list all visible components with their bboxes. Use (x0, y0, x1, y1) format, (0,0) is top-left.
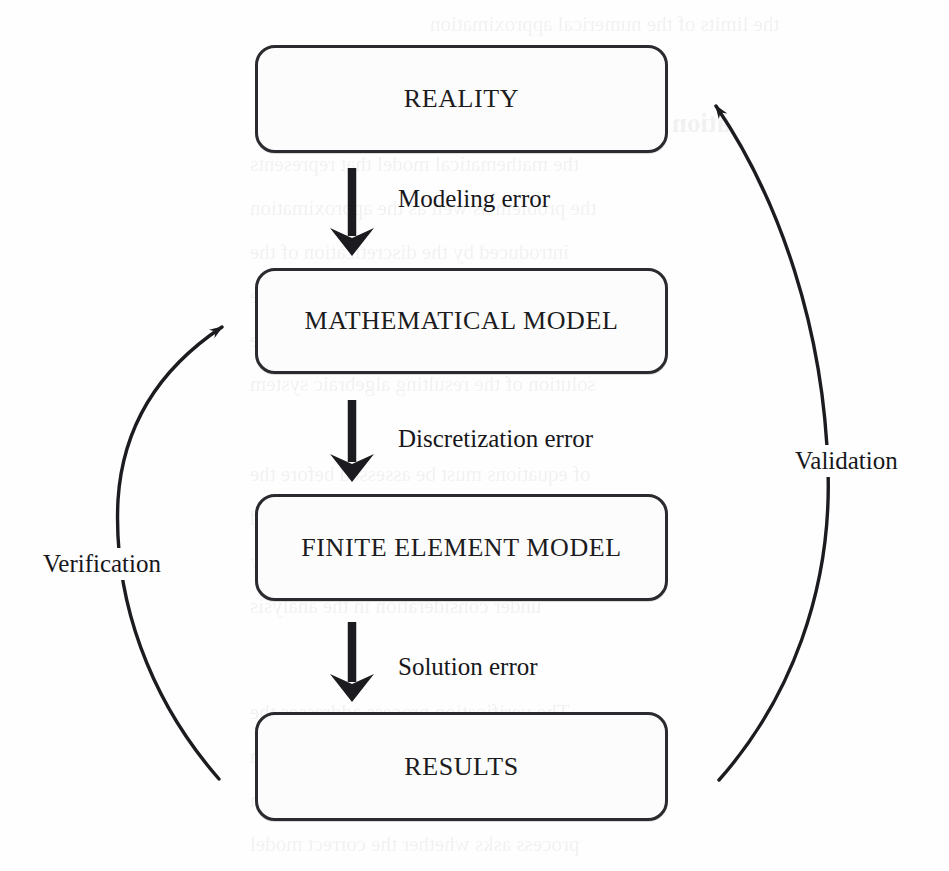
node-results[interactable]: RESULTS (255, 712, 668, 821)
arrow-modeling-error (330, 168, 374, 256)
edge-label-verification: Verification (38, 548, 166, 580)
edge-label-solution-error: Solution error (398, 653, 538, 681)
node-reality-label: REALITY (404, 84, 519, 114)
node-finite-element-model[interactable]: FINITE ELEMENT MODEL (255, 494, 668, 601)
edge-label-validation: Validation (790, 445, 903, 477)
arrow-discretization-error (330, 400, 374, 482)
arrow-validation-curve (716, 106, 828, 780)
edge-label-modeling-error: Modeling error (398, 185, 550, 213)
node-reality[interactable]: REALITY (255, 45, 668, 153)
node-mathematical-model-label: MATHEMATICAL MODEL (305, 306, 619, 336)
arrow-solution-error (330, 622, 374, 702)
edge-label-discretization-error: Discretization error (398, 425, 593, 453)
node-mathematical-model[interactable]: MATHEMATICAL MODEL (255, 268, 668, 374)
node-results-label: RESULTS (404, 752, 519, 782)
node-finite-element-model-label: FINITE ELEMENT MODEL (301, 533, 622, 563)
diagram-canvas: the limits of the numerical approximatio… (0, 0, 949, 871)
